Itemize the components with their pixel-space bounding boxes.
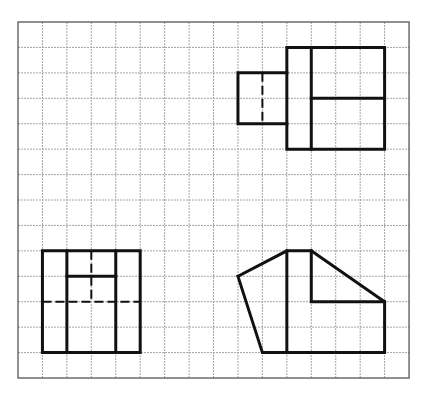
grid-lines [18, 22, 409, 378]
grid-diagram [0, 0, 424, 394]
